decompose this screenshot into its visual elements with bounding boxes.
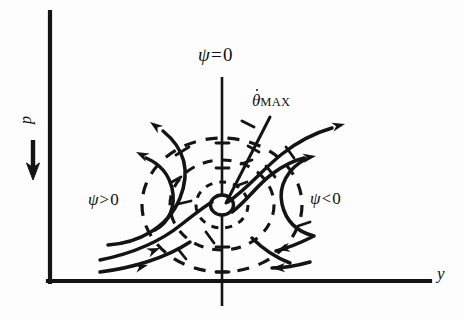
phase-portrait-figure: ψ=0 θMAX ψ>0 ψ<0 p y <box>0 0 464 319</box>
theta-max-subscript: MAX <box>260 95 290 109</box>
less-than-sign: < <box>321 189 333 208</box>
psi-symbol-left: ψ <box>88 190 99 209</box>
axis-label-y: y <box>437 265 445 282</box>
greater-than-sign: > <box>99 190 111 209</box>
psi-symbol: ψ <box>198 44 210 65</box>
psi-zero-value: 0 <box>223 44 233 65</box>
trajectory-left-inner <box>146 158 173 230</box>
equals-sign: = <box>210 44 223 65</box>
axis-label-p: p <box>18 116 34 124</box>
label-psi-greater-than-zero: ψ>0 <box>88 191 119 208</box>
axis-group <box>48 12 430 282</box>
psi-gt-value: 0 <box>110 190 119 209</box>
label-psi-less-than-zero: ψ<0 <box>310 190 341 207</box>
psi-lt-value: 0 <box>332 189 341 208</box>
label-theta-dot-max: θMAX <box>252 92 290 109</box>
p-axis-arrow-icon <box>27 140 40 180</box>
psi-symbol-right: ψ <box>310 189 321 208</box>
theta-dot-symbol: θ <box>252 92 260 109</box>
label-psi-equals-zero: ψ=0 <box>198 45 233 64</box>
